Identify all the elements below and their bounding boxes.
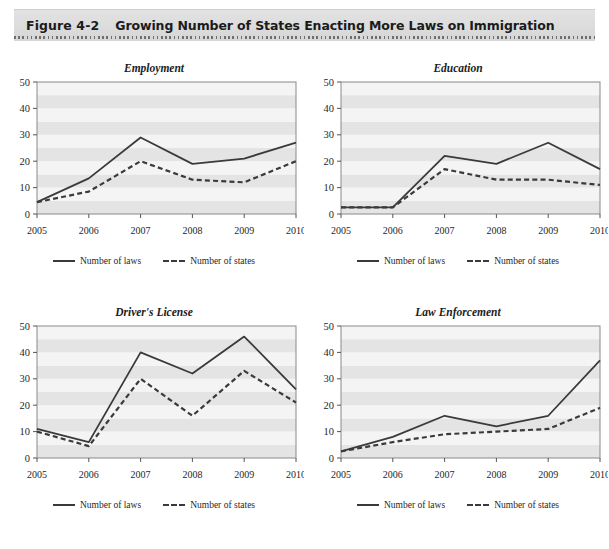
svg-text:2007: 2007	[435, 469, 455, 480]
svg-text:0: 0	[329, 209, 334, 220]
svg-text:2010: 2010	[286, 225, 304, 236]
legend-item-laws: Number of laws	[357, 500, 445, 510]
svg-text:2008: 2008	[182, 225, 202, 236]
svg-text:50: 50	[324, 77, 335, 88]
legend-item-states: Number of states	[467, 500, 559, 510]
legend-label-states: Number of states	[494, 256, 559, 266]
legend-label-states: Number of states	[190, 256, 255, 266]
svg-text:2010: 2010	[286, 469, 304, 480]
line-chart-drivers-license: 01020304050200520062007200820092010	[4, 320, 304, 496]
figure-title: Growing Number of States Enacting More L…	[115, 18, 554, 33]
plot-area-employment: 01020304050200520062007200820092010	[4, 76, 304, 252]
solid-line-swatch-icon	[53, 260, 75, 262]
chart-title-employment: Employment	[4, 60, 304, 76]
chart-title-education: Education	[308, 60, 608, 76]
svg-text:50: 50	[324, 321, 335, 332]
line-chart-employment: 01020304050200520062007200820092010	[4, 76, 304, 252]
dotted-divider	[14, 36, 595, 39]
chart-panel-law-enforcement: Law Enforcement 010203040502005200620072…	[308, 302, 608, 546]
chart-title-law-enforcement: Law Enforcement	[308, 304, 608, 320]
svg-text:20: 20	[324, 156, 335, 167]
svg-text:2007: 2007	[131, 469, 151, 480]
chart-title-drivers-license: Driver's License	[4, 304, 304, 320]
svg-text:20: 20	[20, 156, 31, 167]
plot-area-law-enforcement: 01020304050200520062007200820092010	[308, 320, 608, 496]
legend-label-laws: Number of laws	[80, 256, 141, 266]
legend-employment: Number of laws Number of states	[4, 256, 304, 266]
solid-line-swatch-icon	[357, 504, 379, 506]
svg-text:2009: 2009	[234, 225, 254, 236]
svg-text:2006: 2006	[383, 469, 403, 480]
svg-text:2010: 2010	[590, 469, 608, 480]
figure-number: Figure 4-2	[26, 18, 99, 33]
svg-text:30: 30	[324, 373, 335, 384]
line-chart-education: 01020304050200520062007200820092010	[308, 76, 608, 252]
svg-text:10: 10	[324, 426, 335, 437]
legend-label-states: Number of states	[494, 500, 559, 510]
svg-text:20: 20	[20, 400, 31, 411]
legend-label-laws: Number of laws	[80, 500, 141, 510]
legend-drivers-license: Number of laws Number of states	[4, 500, 304, 510]
svg-text:0: 0	[329, 453, 334, 464]
line-chart-law-enforcement: 01020304050200520062007200820092010	[308, 320, 608, 496]
legend-item-laws: Number of laws	[357, 256, 445, 266]
dashed-line-swatch-icon	[163, 260, 185, 262]
svg-text:2009: 2009	[538, 469, 558, 480]
legend-label-laws: Number of laws	[384, 256, 445, 266]
svg-text:50: 50	[20, 321, 31, 332]
svg-text:10: 10	[20, 182, 31, 193]
legend-law-enforcement: Number of laws Number of states	[308, 500, 608, 510]
svg-text:2006: 2006	[79, 469, 99, 480]
legend-item-laws: Number of laws	[53, 500, 141, 510]
chart-panel-employment: Employment 01020304050200520062007200820…	[4, 58, 304, 302]
svg-text:50: 50	[20, 77, 31, 88]
chart-panel-drivers-license: Driver's License 01020304050200520062007…	[4, 302, 304, 546]
svg-text:2005: 2005	[331, 225, 351, 236]
svg-text:0: 0	[25, 209, 30, 220]
legend-education: Number of laws Number of states	[308, 256, 608, 266]
plot-area-drivers-license: 01020304050200520062007200820092010	[4, 320, 304, 496]
svg-text:2007: 2007	[131, 225, 151, 236]
svg-text:2009: 2009	[538, 225, 558, 236]
svg-text:40: 40	[20, 347, 31, 358]
svg-text:40: 40	[324, 103, 335, 114]
svg-text:0: 0	[25, 453, 30, 464]
figure-header-banner: Figure 4-2 Growing Number of States Enac…	[14, 9, 595, 41]
svg-text:2008: 2008	[182, 469, 202, 480]
solid-line-swatch-icon	[53, 504, 75, 506]
legend-label-states: Number of states	[190, 500, 255, 510]
plot-area-education: 01020304050200520062007200820092010	[308, 76, 608, 252]
svg-text:30: 30	[20, 129, 31, 140]
dashed-line-swatch-icon	[467, 260, 489, 262]
legend-item-states: Number of states	[163, 256, 255, 266]
legend-item-laws: Number of laws	[53, 256, 141, 266]
svg-text:2007: 2007	[435, 225, 455, 236]
solid-line-swatch-icon	[357, 260, 379, 262]
svg-text:2005: 2005	[27, 225, 47, 236]
svg-text:40: 40	[20, 103, 31, 114]
svg-text:2008: 2008	[486, 225, 506, 236]
legend-item-states: Number of states	[163, 500, 255, 510]
svg-text:10: 10	[324, 182, 335, 193]
chart-panel-education: Education 010203040502005200620072008200…	[308, 58, 608, 302]
svg-text:2006: 2006	[79, 225, 99, 236]
legend-item-states: Number of states	[467, 256, 559, 266]
svg-text:30: 30	[20, 373, 31, 384]
dashed-line-swatch-icon	[467, 504, 489, 506]
svg-text:30: 30	[324, 129, 335, 140]
svg-text:20: 20	[324, 400, 335, 411]
svg-text:2005: 2005	[331, 469, 351, 480]
svg-text:2006: 2006	[383, 225, 403, 236]
svg-text:2005: 2005	[27, 469, 47, 480]
legend-label-laws: Number of laws	[384, 500, 445, 510]
svg-text:2009: 2009	[234, 469, 254, 480]
dashed-line-swatch-icon	[163, 504, 185, 506]
svg-text:40: 40	[324, 347, 335, 358]
svg-text:2008: 2008	[486, 469, 506, 480]
svg-text:10: 10	[20, 426, 31, 437]
svg-text:2010: 2010	[590, 225, 608, 236]
